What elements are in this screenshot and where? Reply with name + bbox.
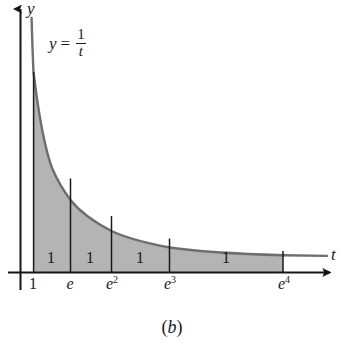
curve-equation-label: y = 1 t [49,27,88,60]
area-label-strip-2: 1 [86,250,94,266]
equation-equals-sign: = [60,35,72,52]
figure-caption: (b) [162,318,183,336]
caption-close-paren: ) [177,317,183,337]
fraction-denominator: t [76,43,86,60]
xtick-label-e2: e2 [106,276,118,292]
area-label-strip-1: 1 [47,250,55,266]
area-label-strip-4: 1 [222,250,230,266]
caption-letter: b [168,317,177,337]
xtick-label-e3: e3 [164,276,176,292]
xtick-label-e: e [66,276,73,292]
fraction-numerator: 1 [74,27,88,43]
area-label-strip-3: 1 [136,250,144,266]
t-axis-label: t [331,246,336,263]
figure-container: y t y = 1 t 1 e e2 e3 e4 1 1 1 1 (b) [0,0,345,358]
equation-lhs: y [49,35,57,52]
equation-fraction: 1 t [74,27,88,60]
y-axis-label: y [27,0,35,17]
xtick-label-1: 1 [29,276,37,292]
xtick-label-e4: e4 [278,276,290,292]
